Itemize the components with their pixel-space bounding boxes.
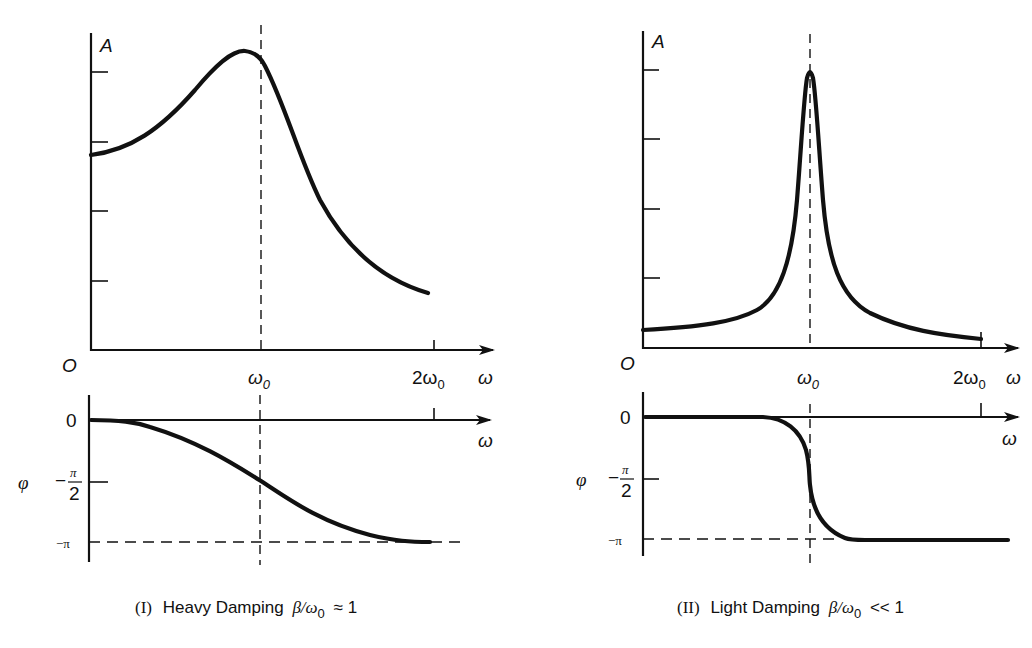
phase-curve	[645, 417, 1008, 540]
panel-ii-amplitude-plot: A O ω0 2ω0 ω	[620, 31, 1021, 392]
amplitude-curve	[91, 51, 428, 293]
caption-panel-i: (I) Heavy Damping β/ω0 ≈ 1	[135, 598, 357, 622]
phase-x-label: ω	[478, 430, 493, 451]
phase-tick-half-pi-den: 2	[69, 483, 80, 504]
amplitude-y-ticks	[643, 70, 660, 278]
phase-y-label: φ	[576, 469, 587, 490]
amplitude-x-label: ω	[478, 367, 493, 388]
phase-tick-minus-pi: −π	[56, 536, 70, 551]
amplitude-y-label: A	[651, 31, 665, 52]
origin-label: O	[62, 355, 77, 376]
phase-tick-half-pi-num: π	[70, 465, 77, 480]
phase-tick-half-pi-minus: −	[55, 470, 66, 491]
phase-tick-half-pi-num: π	[622, 462, 629, 477]
amplitude-curve	[643, 72, 981, 339]
resonance-figure: A O ω0 2ω0 ω 0 − π 2 −π φ ω	[0, 0, 1032, 648]
tick-label-w0: ω0	[248, 367, 271, 392]
tick-label-2w0: 2ω0	[953, 367, 986, 392]
amplitude-x-label: ω	[1006, 367, 1021, 388]
panel-ii-phase-plot: 0 − π 2 −π φ ω	[576, 392, 1018, 566]
phase-x-label: ω	[1002, 428, 1017, 449]
panel-i-amplitude-plot: A O ω0 2ω0 ω	[62, 25, 493, 392]
amplitude-y-ticks	[91, 72, 108, 281]
phase-tick-zero: 0	[66, 410, 77, 431]
panel-i-phase-plot: 0 − π 2 −π φ ω	[18, 395, 493, 565]
phase-tick-half-pi-den: 2	[621, 480, 632, 501]
caption-panel-ii: (II) Light Damping β/ω0 << 1	[677, 598, 904, 622]
phase-tick-minus-pi: −π	[608, 533, 622, 548]
tick-label-w0: ω0	[797, 367, 820, 392]
phase-tick-half-pi-minus: −	[608, 467, 619, 488]
amplitude-y-label: A	[99, 35, 113, 56]
phase-y-label: φ	[18, 472, 29, 493]
phase-tick-zero: 0	[620, 407, 631, 428]
origin-label: O	[620, 353, 635, 374]
tick-label-2w0: 2ω0	[412, 367, 445, 392]
